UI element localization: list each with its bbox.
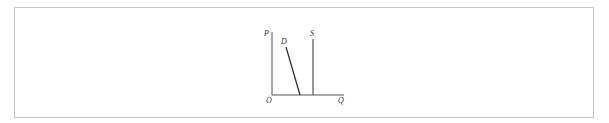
demand-label: D — [280, 37, 287, 46]
origin-label: O — [266, 96, 272, 105]
demand-curve — [286, 47, 300, 95]
x-axis-label: Q — [338, 96, 344, 105]
supply-demand-diagram: P D S O Q — [0, 0, 609, 123]
y-axis-label: P — [263, 29, 269, 38]
supply-label: S — [310, 29, 314, 38]
